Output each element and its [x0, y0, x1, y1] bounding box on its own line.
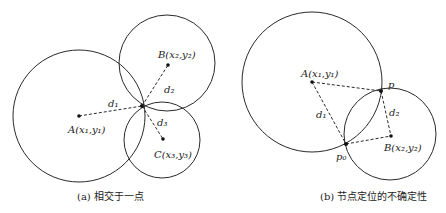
caption-a: (a) 相交于一点 — [77, 190, 144, 202]
node-b-label: B(x₂,y₂) — [157, 49, 196, 60]
node-a-label: A(x₁,y₁) — [67, 124, 106, 135]
point-p-label: p — [388, 79, 395, 90]
node-b-dot — [389, 134, 393, 138]
intersection-dot — [140, 104, 144, 108]
node-b-label: B(x₂,y₂) — [383, 142, 422, 153]
node-c-dot — [161, 137, 165, 141]
d2-label: d₂ — [389, 107, 399, 118]
panel-b: A(x₁,y₁) B(x₂,y₂) p p₀ d₁ d₂ (b) 节点定位的不确… — [242, 12, 436, 202]
node-b-dot — [166, 63, 170, 67]
point-p0-dot — [344, 142, 348, 146]
point-p-dot — [379, 89, 383, 93]
node-c-label: C(x₃,y₃) — [154, 149, 192, 160]
panel-a: A(x₁,y₁) B(x₂,y₂) C(x₃,y₃) d₁ d₂ d₃ (a) … — [13, 15, 215, 202]
node-a-label: A(x₁,y₁) — [300, 68, 339, 79]
d1-label: d₁ — [108, 98, 118, 109]
node-a-dot — [310, 80, 314, 84]
circle-b — [119, 15, 215, 111]
node-a-dot — [77, 114, 81, 118]
circle-b — [344, 88, 436, 180]
line-a-p — [312, 82, 381, 91]
d2-label: d₂ — [164, 84, 174, 95]
d1-label: d₁ — [316, 109, 326, 120]
caption-b: (b) 节点定位的不确定性 — [320, 190, 427, 202]
d3-label: d₃ — [157, 117, 167, 128]
point-p0-label: p₀ — [336, 151, 346, 162]
figure-canvas: A(x₁,y₁) B(x₂,y₂) C(x₃,y₃) d₁ d₂ d₃ (a) … — [0, 0, 446, 213]
